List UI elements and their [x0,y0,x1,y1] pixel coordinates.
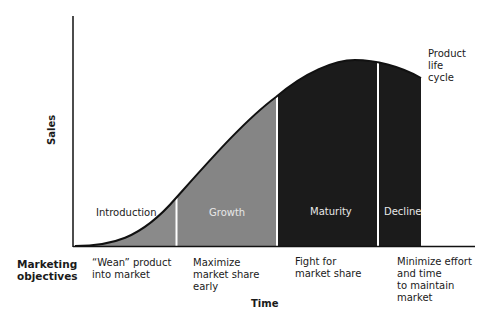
objective-introduction: “Wean” product into market [92,257,171,281]
objective-maturity: Fight for market share [295,256,361,280]
stage-label-maturity: Maturity [310,206,352,218]
marketing-objectives-label: Marketing objectives [17,258,78,282]
stage-label-decline: Decline [384,206,421,218]
objective-decline: Minimize effort and time to maintain mar… [397,256,472,304]
x-axis-label: Time [251,298,278,310]
curve-title: Product life cycle [428,48,466,84]
y-axis-label: Sales [46,115,58,145]
objective-growth: Maximize market share early [193,257,259,293]
stage-label-introduction: Introduction [96,207,157,219]
stage-label-growth: Growth [209,207,245,219]
